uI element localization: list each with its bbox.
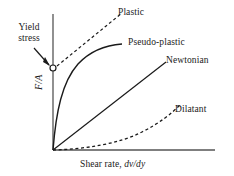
x-axis-label: Shear rate, dv/dy	[80, 159, 145, 170]
curve-label-pseudo-plastic: Pseudo-plastic	[128, 37, 185, 48]
curve-dilatant	[53, 105, 180, 150]
curve-pseudo-plastic	[53, 44, 122, 150]
y-axis-label: F/A	[34, 65, 45, 99]
curve-plastic	[57, 13, 122, 66]
curve-label-dilatant: Dilatant	[175, 104, 206, 115]
yield-stress-label: Yield stress	[8, 22, 50, 43]
rheology-flow-curves-figure: Yield stress Plastic Pseudo-plastic Newt…	[0, 0, 234, 176]
x-axis-label-symbol: dv/dy	[124, 159, 145, 169]
curve-label-plastic: Plastic	[118, 7, 144, 18]
curve-label-newtonian: Newtonian	[166, 55, 209, 66]
yield-stress-marker-icon	[50, 65, 56, 71]
x-axis-label-prefix: Shear rate,	[80, 159, 124, 169]
